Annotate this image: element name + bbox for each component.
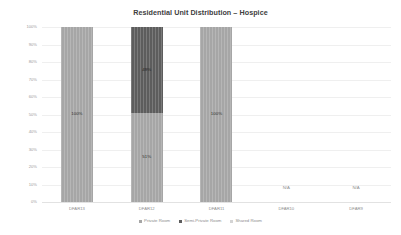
x-axis-tick-label: DFAR9 bbox=[321, 204, 391, 216]
gridline bbox=[42, 202, 391, 203]
no-data-label: N/A bbox=[283, 186, 290, 190]
bar-segment[interactable]: 49% bbox=[131, 27, 163, 113]
legend-swatch-icon bbox=[230, 220, 233, 223]
plot-area: 100%51%49%100%N/AN/A bbox=[42, 27, 391, 202]
bar-value-label: 100% bbox=[211, 112, 222, 116]
y-axis-tick-label: 50% bbox=[1, 112, 37, 116]
bar-value-label: 100% bbox=[71, 112, 82, 116]
no-data-label: N/A bbox=[352, 186, 359, 190]
bar-column: 100% bbox=[42, 27, 112, 202]
bar-column: N/A bbox=[321, 27, 391, 202]
chart-title: Residential Unit Distribution – Hospice bbox=[0, 8, 401, 17]
x-axis-tick-label: DFAR10 bbox=[251, 204, 321, 216]
bar-column: N/A bbox=[251, 27, 321, 202]
stacked-bar[interactable]: 100% bbox=[200, 27, 232, 202]
y-axis-tick-label: 80% bbox=[1, 60, 37, 64]
bar-segment[interactable]: 51% bbox=[131, 113, 163, 202]
legend-label: Semi-Private Room bbox=[184, 219, 221, 223]
y-axis-tick-label: 60% bbox=[1, 95, 37, 99]
y-axis: 100%90%80%70%60%50%40%30%20%10%0% bbox=[0, 27, 40, 202]
legend-label: Shared Room bbox=[235, 219, 262, 223]
stacked-bar[interactable]: 51%49% bbox=[131, 27, 163, 202]
legend-swatch-icon bbox=[179, 220, 182, 223]
bar-segment[interactable]: 100% bbox=[200, 27, 232, 202]
stacked-bar[interactable]: 100% bbox=[61, 27, 93, 202]
bar-value-label: 49% bbox=[142, 68, 151, 72]
y-axis-tick-label: 100% bbox=[1, 25, 37, 29]
legend-item[interactable]: Shared Room bbox=[230, 219, 262, 223]
legend-label: Private Room bbox=[144, 219, 170, 223]
y-axis-tick-label: 40% bbox=[1, 130, 37, 134]
chart-legend: Private RoomSemi-Private RoomShared Room bbox=[0, 219, 401, 223]
bar-value-label: 51% bbox=[142, 155, 151, 159]
y-axis-tick-label: 70% bbox=[1, 77, 37, 81]
x-axis: DFAR13DFAR12DFAR11DFAR10DFAR9 bbox=[42, 204, 391, 216]
bar-column: 51%49% bbox=[112, 27, 182, 202]
legend-swatch-icon bbox=[139, 220, 142, 223]
y-axis-tick-label: 10% bbox=[1, 182, 37, 186]
x-axis-tick-label: DFAR11 bbox=[182, 204, 252, 216]
y-axis-tick-label: 20% bbox=[1, 165, 37, 169]
x-axis-tick-label: DFAR12 bbox=[112, 204, 182, 216]
y-axis-tick-label: 90% bbox=[1, 42, 37, 46]
y-axis-tick-label: 30% bbox=[1, 147, 37, 151]
x-axis-tick-label: DFAR13 bbox=[42, 204, 112, 216]
chart-container: Residential Unit Distribution – Hospice … bbox=[0, 0, 401, 235]
y-axis-tick-label: 0% bbox=[1, 200, 37, 204]
bar-column: 100% bbox=[182, 27, 252, 202]
legend-item[interactable]: Private Room bbox=[139, 219, 170, 223]
legend-item[interactable]: Semi-Private Room bbox=[179, 219, 221, 223]
bar-columns: 100%51%49%100%N/AN/A bbox=[42, 27, 391, 202]
bar-segment[interactable]: 100% bbox=[61, 27, 93, 202]
